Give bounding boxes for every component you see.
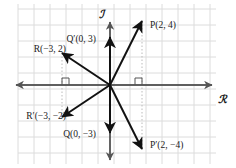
axis-label-imaginary: ℐ (99, 8, 107, 20)
vector-P (110, 21, 142, 85)
point-label-R: R(−3, 2) (34, 44, 66, 55)
vector-Pprime (110, 85, 142, 149)
figure-canvas: P(2, 4)P′(2, −4)Q′(0, 3)Q(0, −3)R(−3, 2)… (0, 0, 236, 168)
complex-plane-diagram: P(2, 4)P′(2, −4)Q′(0, 3)Q(0, −3)R(−3, 2)… (0, 0, 236, 168)
point-label-P: P(2, 4) (150, 20, 176, 31)
point-label-Qprime: Q′(0, 3) (66, 34, 96, 45)
point-label-Q: Q(0, −3) (63, 129, 96, 140)
grid-lines (18, 4, 216, 164)
right-angle-positive-x (135, 78, 142, 85)
vector-Rprime (62, 85, 110, 117)
point-label-Pprime: P′(2, −4) (150, 140, 183, 151)
axis-label-real: ℛ (218, 93, 228, 105)
point-label-Rprime: R′(−3, −2) (26, 111, 66, 122)
